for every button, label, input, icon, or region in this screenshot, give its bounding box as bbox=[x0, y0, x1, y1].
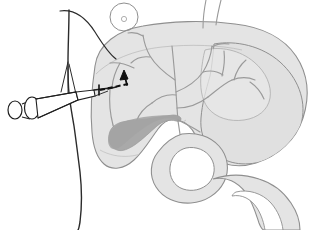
anatomy-illustration-svg bbox=[0, 0, 325, 230]
vessel-right bbox=[216, 0, 221, 25]
skin-marker-outer-circle bbox=[110, 3, 138, 31]
skin-marker-icon bbox=[110, 3, 138, 31]
fascia-line-right bbox=[69, 64, 76, 94]
jejunum-loop bbox=[213, 175, 300, 230]
illustration-canvas: Percutaneous transhepatic needle punctur… bbox=[0, 0, 325, 230]
anterior-body-wall-line bbox=[68, 10, 82, 230]
duodenal-c-loop-inner bbox=[170, 147, 214, 190]
fascia-line-left bbox=[61, 62, 68, 92]
plunger-thumb-rest[interactable] bbox=[8, 101, 22, 119]
duodenum bbox=[151, 134, 227, 204]
skin-marker-inner-circle bbox=[121, 16, 126, 21]
